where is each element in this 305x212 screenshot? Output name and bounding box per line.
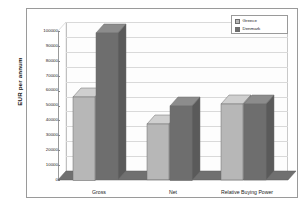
legend-item-denmark[interactable]: Denmark <box>235 26 284 33</box>
legend-label: Denmark <box>243 27 261 31</box>
x-axis-label-relative-buying-power: Relative Buying Power <box>202 190 292 195</box>
legend-item-greece[interactable]: Greece <box>235 18 284 25</box>
chart-legend[interactable]: Greece Denmark <box>231 15 288 34</box>
bar-denmark-net[interactable] <box>170 97 200 181</box>
chart-container: EUR per annum 01000020000300004000050000… <box>0 0 305 212</box>
bar-denmark-gross[interactable] <box>96 24 126 180</box>
legend-label: Greece <box>243 19 257 23</box>
bar-denmark-relative-buying-power[interactable] <box>244 95 274 180</box>
legend-swatch-icon <box>235 27 240 32</box>
legend-swatch-icon <box>235 19 240 24</box>
